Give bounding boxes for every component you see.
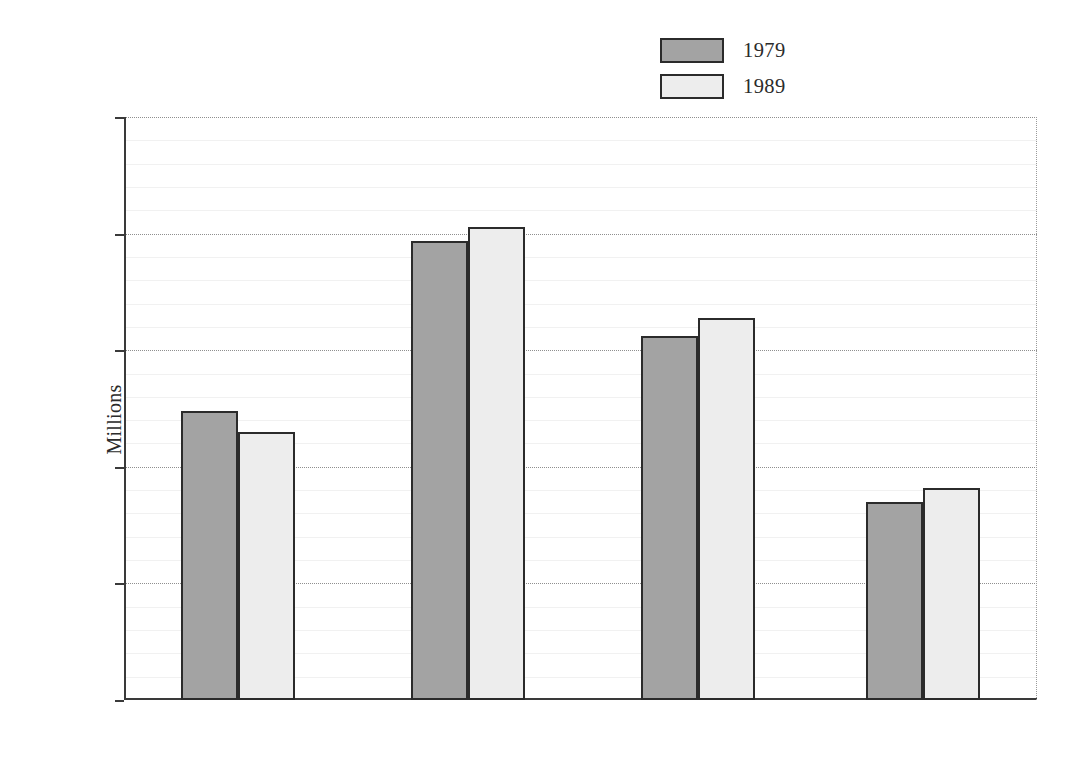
gridline-minor [124, 140, 1037, 141]
gridline-minor [124, 397, 1037, 398]
bar-chart-figure: 1979 1989 0510152025 Under 1616–3940–848… [0, 0, 1083, 774]
bar [468, 227, 525, 700]
bar [698, 318, 755, 700]
bar [923, 488, 980, 700]
plot-right-border [1036, 117, 1037, 700]
y-tick-mark [115, 583, 124, 585]
legend-entry-1989: 1989 [660, 68, 890, 104]
gridline-minor [124, 187, 1037, 188]
legend-label-1979: 1979 [743, 39, 786, 62]
legend-swatch-1989 [660, 74, 724, 99]
y-tick-mark [115, 117, 124, 119]
plot-area: 0510152025 Under 1616–3940–8485 and over… [124, 117, 1037, 700]
gridline-minor [124, 257, 1037, 258]
gridline-minor [124, 327, 1037, 328]
gridline-minor [124, 164, 1037, 165]
gridline-major [124, 234, 1037, 235]
gridline-minor [124, 374, 1037, 375]
chart-legend: 1979 1989 [660, 32, 890, 104]
legend-entry-1979: 1979 [660, 32, 890, 68]
bar [238, 432, 295, 700]
y-tick-mark [115, 234, 124, 236]
y-tick-mark [115, 700, 124, 702]
y-axis-title: Millions [103, 340, 126, 500]
gridline-minor [124, 304, 1037, 305]
bar [641, 336, 698, 700]
gridline-minor [124, 210, 1037, 211]
bar [181, 411, 238, 700]
gridline-major [124, 117, 1037, 118]
bar [866, 502, 923, 700]
gridline-minor [124, 420, 1037, 421]
gridline-minor [124, 280, 1037, 281]
legend-label-1989: 1989 [743, 75, 786, 98]
legend-swatch-1979 [660, 38, 724, 63]
gridline-major [124, 350, 1037, 351]
bar [411, 241, 468, 700]
